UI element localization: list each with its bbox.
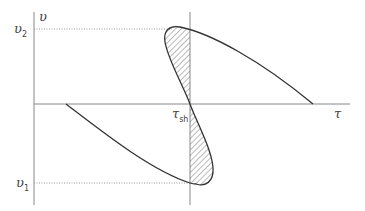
- tau-sh-label: τsh: [172, 107, 188, 120]
- hugoniot-diagram: [0, 0, 365, 211]
- y-axis-label: υ: [39, 10, 47, 23]
- v1-label-sub: 1: [24, 184, 29, 193]
- v2-label: υ2: [14, 22, 27, 35]
- v1-label-main: υ: [16, 175, 24, 190]
- v2-label-main: υ: [14, 21, 22, 36]
- x-axis-label: τ: [334, 107, 341, 120]
- v2-label-sub: 2: [22, 30, 27, 39]
- upper-hatched-region: [165, 27, 190, 104]
- lower-hatched-region: [190, 104, 213, 185]
- tau-sh-label-sub: sh: [179, 115, 188, 124]
- v1-label: υ1: [16, 176, 29, 189]
